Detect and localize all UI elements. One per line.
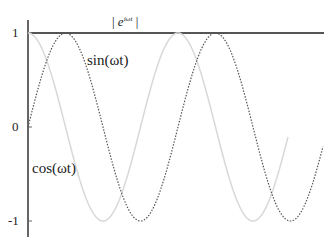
y-tick-label-1: 1: [12, 25, 19, 41]
y-tick-label-0: 0: [12, 119, 19, 135]
cos-curve: [28, 33, 288, 221]
y-tick-label-neg1: -1: [8, 213, 19, 229]
sin-label: sin(ωt): [87, 52, 129, 69]
cos-label: cos(ωt): [32, 160, 76, 177]
abs-label: | eiωt |: [112, 14, 138, 30]
chart-plot-area: [0, 0, 334, 250]
abs-right: |: [132, 14, 138, 29]
sin-curve: [28, 33, 323, 221]
